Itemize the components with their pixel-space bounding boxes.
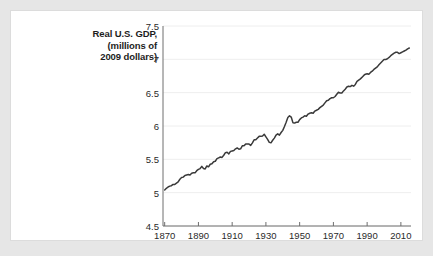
chart-tick-marks — [165, 222, 401, 226]
figure-card: Real U.S. GDP, (millions of 2009 dollars… — [11, 11, 422, 240]
chart-canvas — [11, 11, 422, 240]
page-root: Real U.S. GDP, (millions of 2009 dollars… — [0, 0, 433, 256]
chart-gridlines — [163, 26, 411, 226]
gdp-line-series — [165, 48, 410, 190]
